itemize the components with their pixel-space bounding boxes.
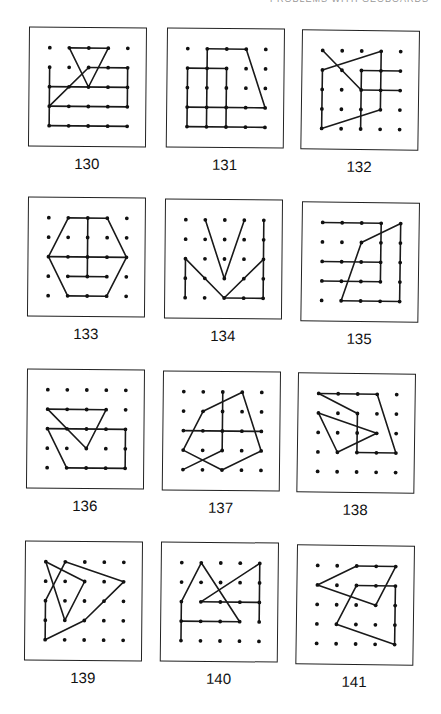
geoboard-diagram: [29, 27, 146, 146]
peg-dot: [224, 106, 228, 110]
peg-dot: [66, 235, 70, 239]
peg-dot: [82, 619, 86, 623]
peg-dot: [122, 560, 126, 564]
peg-dot: [102, 560, 106, 564]
peg-dot: [379, 49, 383, 53]
peg-dot: [244, 106, 248, 110]
peg-dot: [105, 216, 109, 220]
peg-dot: [360, 69, 364, 73]
peg-dot: [373, 623, 377, 627]
peg-dot: [182, 390, 186, 394]
peg-dot: [221, 390, 225, 394]
peg-dot: [121, 638, 125, 642]
geoboard-panel-138: 138: [298, 372, 416, 374]
peg-dot: [203, 257, 207, 261]
peg-dot: [240, 429, 244, 433]
problem-number: 134: [164, 326, 282, 344]
peg-dot: [360, 49, 364, 53]
geoboard-panel-137: 137: [163, 370, 281, 371]
peg-dot: [102, 619, 106, 623]
geoboard-frame: [160, 541, 279, 662]
peg-dot: [244, 67, 248, 71]
peg-dot: [48, 85, 52, 89]
peg-dot: [360, 221, 364, 225]
peg-dot: [185, 105, 189, 109]
geoboard-diagram: [28, 197, 145, 316]
peg-dot: [201, 390, 205, 394]
rubber-band-segment: [259, 563, 260, 621]
peg-dot: [321, 221, 325, 225]
peg-dot: [339, 127, 343, 131]
peg-dot: [339, 299, 343, 303]
peg-dot: [359, 127, 363, 131]
peg-dot: [393, 643, 397, 647]
peg-dot: [67, 104, 71, 108]
peg-dot: [359, 260, 363, 264]
peg-dot: [398, 108, 402, 112]
peg-dot: [240, 410, 244, 414]
peg-dot: [106, 105, 110, 109]
rubber-band-segment: [47, 429, 67, 468]
peg-dot: [242, 257, 246, 261]
peg-dot: [184, 237, 188, 241]
rubber-band-segment: [48, 257, 68, 296]
peg-dot: [104, 427, 108, 431]
peg-dot: [199, 639, 203, 643]
geoboard-frame: [28, 26, 147, 147]
peg-dot: [124, 275, 128, 279]
peg-dot: [354, 623, 358, 627]
rubber-band-segment: [376, 394, 396, 453]
geoboard-panel-141: 141: [297, 544, 415, 546]
peg-dot: [85, 294, 89, 298]
problem-number: 136: [26, 496, 144, 514]
geoboard-diagram: [167, 28, 284, 147]
rubber-band-segment: [319, 393, 377, 394]
geoboard-panel-140: 140: [161, 541, 279, 542]
geoboard-diagram: [301, 202, 419, 322]
peg-dot: [261, 296, 265, 300]
peg-dot: [126, 46, 130, 50]
peg-dot: [262, 218, 266, 222]
peg-dot: [203, 237, 207, 241]
peg-dot: [87, 66, 91, 70]
peg-dot: [379, 69, 383, 73]
rubber-band-segment: [49, 67, 50, 125]
peg-dot: [260, 390, 264, 394]
peg-dot: [125, 255, 129, 259]
peg-dot: [85, 408, 89, 412]
peg-dot: [379, 221, 383, 225]
peg-dot: [218, 639, 222, 643]
peg-dot: [83, 560, 87, 564]
peg-dot: [46, 427, 50, 431]
peg-dot: [223, 218, 227, 222]
peg-dot: [65, 427, 69, 431]
peg-dot: [46, 294, 50, 298]
geoboard-diagram: [297, 373, 415, 493]
peg-dot: [82, 638, 86, 642]
peg-dot: [179, 639, 183, 643]
peg-dot: [258, 581, 262, 585]
peg-dot: [44, 560, 48, 564]
peg-dot: [66, 294, 70, 298]
peg-dot: [356, 392, 360, 396]
peg-dot: [86, 124, 90, 128]
geoboard-panel-136: 136: [27, 368, 145, 369]
rubber-band-segment: [222, 451, 261, 471]
peg-dot: [205, 47, 209, 51]
peg-dot: [102, 580, 106, 584]
peg-dot: [104, 466, 108, 470]
peg-dot: [67, 85, 71, 89]
peg-dot: [48, 65, 52, 69]
peg-dot: [264, 67, 268, 71]
peg-dot: [379, 88, 383, 92]
peg-dot: [263, 86, 267, 90]
rubber-band-segment: [87, 218, 88, 276]
geoboard-panel-132: 132: [302, 29, 420, 31]
peg-dot: [63, 560, 67, 564]
geoboard-frame: [26, 368, 145, 489]
peg-dot: [355, 451, 359, 455]
peg-dot: [44, 579, 48, 583]
peg-dot: [201, 429, 205, 433]
peg-dot: [126, 85, 130, 89]
peg-dot: [220, 429, 224, 433]
